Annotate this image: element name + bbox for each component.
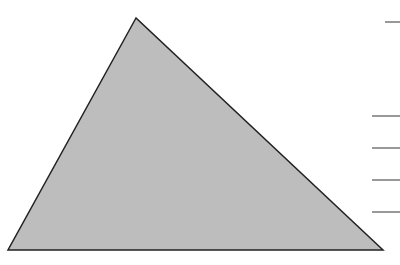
diagram-canvas: [0, 0, 400, 265]
answer-lines: [372, 22, 400, 212]
triangle-shape: [8, 18, 383, 250]
